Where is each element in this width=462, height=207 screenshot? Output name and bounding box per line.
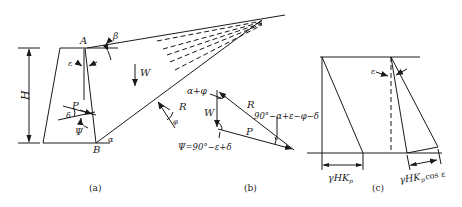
label-psi-equation: Ψ=90°−ε+δ — [178, 142, 232, 152]
label-point-a: A — [79, 35, 87, 46]
label-dim-right: γHKpcos ε — [399, 168, 446, 187]
dim-right-tick-b — [438, 149, 441, 164]
r-normal-line — [158, 102, 170, 110]
label-beta: β — [112, 31, 118, 41]
caption-c: (c) — [372, 183, 384, 193]
earth-pressure-diagram: A β ε H P δ Ψ B α W R φ (a) α+φ W R 90°−… — [0, 0, 462, 207]
label-h: H — [19, 90, 32, 101]
pressure-triangle-left — [322, 57, 363, 153]
beta-arc-arrow — [108, 51, 111, 60]
epsilon-arrow-right — [89, 62, 97, 66]
wedge-hatch — [157, 21, 262, 70]
angle-leader-top — [210, 94, 221, 98]
beta-arrow — [106, 40, 110, 44]
angle-leader-bottom — [219, 132, 220, 138]
panel-a — [18, 15, 285, 143]
label-point-b: B — [92, 144, 100, 155]
label-epsilon-c: ε — [371, 67, 375, 76]
label-phi: φ — [173, 118, 178, 126]
angle-arc-right — [275, 137, 276, 144]
p-force-arrow — [80, 110, 92, 114]
label-dim-left: γHKp — [328, 172, 353, 185]
angle-arc-bottom-left — [217, 122, 222, 130]
diagram-svg: A β ε H P δ Ψ B α W R φ (a) α+φ W R 90°−… — [0, 0, 462, 207]
label-w: W — [140, 67, 151, 78]
epsilon-arrow-left — [76, 62, 82, 66]
label-r: R — [178, 101, 187, 112]
label-p-b: P — [245, 126, 253, 137]
label-delta: δ — [66, 111, 71, 120]
epsilon-arrow-c-left — [376, 72, 388, 76]
caption-a: (a) — [89, 183, 101, 193]
dim-right-tick-a — [407, 155, 410, 170]
slip-plane — [96, 20, 262, 143]
label-angle-right: 90°−α+ε−φ−δ — [254, 111, 319, 121]
label-p: P — [71, 100, 79, 111]
label-w-b: W — [204, 107, 215, 118]
pressure-triangle-right — [391, 57, 438, 153]
label-r-b: R — [246, 99, 255, 110]
caption-b: (b) — [244, 183, 257, 193]
label-alpha: α — [108, 135, 114, 144]
label-epsilon: ε — [68, 59, 72, 68]
label-psi: Ψ — [75, 127, 84, 137]
label-alpha-plus-phi: α+φ — [187, 86, 208, 96]
